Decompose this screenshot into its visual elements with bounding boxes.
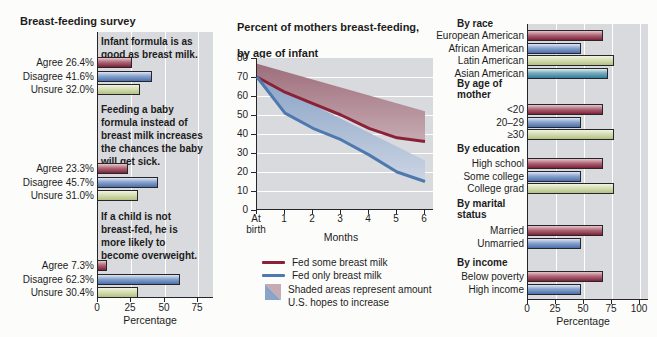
axis-tick	[251, 96, 256, 97]
bar	[527, 68, 608, 79]
demographic-group-header: By education	[457, 143, 520, 154]
bar	[527, 129, 614, 140]
bar-label: High income	[385, 283, 524, 296]
axis-tick-label: 25	[124, 302, 135, 313]
axis-tick-label: 50	[226, 110, 248, 120]
demographics-x-axis-title: Percentage	[556, 315, 610, 327]
bar-label: Agree 7.3%	[0, 259, 94, 272]
bar	[527, 117, 581, 128]
axis-tick-label: 3	[337, 213, 343, 224]
bar-label: Latin American	[385, 54, 524, 67]
axis-tick-label: 10	[226, 186, 248, 196]
bar-label: Unsure 32.0%	[0, 83, 94, 96]
axis-tick-label: 75	[191, 302, 202, 313]
survey-question: Feeding a baby formula instead of breast…	[101, 103, 216, 168]
bar	[527, 271, 603, 282]
bar	[527, 55, 614, 66]
legend-label: Fed only breast milk	[292, 270, 381, 281]
axis-tick-label: 4	[365, 213, 371, 224]
axis-tick	[251, 58, 256, 59]
bar	[97, 260, 107, 271]
bar	[97, 57, 132, 68]
axis-tick-label: 0	[524, 303, 530, 314]
bar-label: Married	[385, 224, 524, 237]
axis-tick	[251, 115, 256, 116]
axis-tick	[251, 172, 256, 173]
bar-label: Disagree 41.6%	[0, 70, 94, 83]
bar	[527, 158, 603, 169]
bar	[527, 104, 603, 115]
bar-label: European American	[385, 29, 524, 42]
bar-label: Asian American	[385, 67, 524, 80]
demographic-group-header: By marital status	[457, 198, 505, 220]
bar-label: ≥30	[385, 128, 524, 141]
bar	[527, 284, 581, 295]
axis-tick-label: 2	[309, 213, 315, 224]
bar-label: Unsure 30.4%	[0, 286, 94, 299]
bar	[97, 71, 152, 82]
axis-tick	[251, 77, 256, 78]
axis-tick-label: At birth	[246, 213, 265, 235]
gridline	[640, 24, 641, 299]
axis-tick-label: 50	[158, 302, 169, 313]
axis-tick-label: 75	[605, 303, 616, 314]
bar	[97, 84, 140, 95]
legend-item-some-breast-milk: Fed some breast milk	[262, 256, 442, 269]
breastfeeding-figure: Breast-feeding survey Percentage Percent…	[0, 0, 657, 337]
axis-tick-label: 50	[577, 303, 588, 314]
bar	[97, 163, 128, 174]
bar	[97, 177, 158, 188]
axis-tick-label: 30	[226, 148, 248, 158]
bar-label: Unsure 31.0%	[0, 189, 94, 202]
axis-tick	[251, 153, 256, 154]
axis-tick-label: 20	[226, 167, 248, 177]
axis-tick-label: 80	[226, 53, 248, 63]
axis-tick-label: 70	[226, 72, 248, 82]
red-line-swatch-icon	[262, 261, 285, 264]
axis-tick-label: 40	[226, 129, 248, 139]
bar-label: College grad	[385, 182, 524, 195]
axis-tick	[251, 134, 256, 135]
bar	[527, 238, 581, 249]
bar	[97, 274, 180, 285]
demographic-group-header: By age of mother	[457, 78, 502, 100]
legend-label: Fed some breast milk	[292, 257, 388, 268]
line-chart-x-axis-title: Months	[324, 231, 358, 243]
shaded-area-swatch-icon	[265, 284, 281, 300]
bar	[527, 43, 581, 54]
survey-panel-title: Breast-feeding survey	[20, 15, 136, 28]
axis-tick	[251, 191, 256, 192]
bar	[97, 190, 138, 201]
bar	[527, 30, 603, 41]
bar-label: Agree 26.4%	[0, 56, 94, 69]
bar	[527, 225, 603, 236]
bar	[527, 171, 581, 182]
blue-line-swatch-icon	[262, 274, 285, 277]
demographic-group-header: By race	[457, 18, 493, 29]
bar-label: Unmarried	[385, 237, 524, 250]
bar-label: <20	[385, 103, 524, 116]
axis-tick-label: 1	[281, 213, 287, 224]
axis-tick-label: 25	[549, 303, 560, 314]
bar	[527, 183, 614, 194]
axis-tick-label: 5	[393, 213, 399, 224]
bar-label: Disagree 62.3%	[0, 273, 94, 286]
demographic-group-header: By income	[457, 257, 508, 268]
axis-tick-label: 100	[631, 303, 648, 314]
bar-label: Agree 23.3%	[0, 162, 94, 175]
axis-tick-label: 0	[226, 205, 248, 215]
axis-tick-label: 6	[421, 213, 427, 224]
axis-tick-label: 0	[94, 302, 100, 313]
bar-label: High school	[385, 157, 524, 170]
axis-tick-label: 60	[226, 91, 248, 101]
bar-label: Disagree 45.7%	[0, 176, 94, 189]
survey-x-axis-title: Percentage	[123, 314, 177, 326]
bar-label: Below poverty	[385, 270, 524, 283]
survey-question: If a child is not breast-fed, he is more…	[101, 210, 216, 262]
bar	[97, 287, 138, 298]
